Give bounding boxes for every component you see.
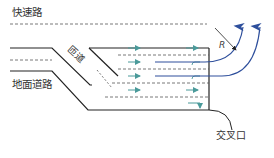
ground-road-label: 地面道路: [12, 79, 52, 90]
intersection-label: 交叉口: [216, 131, 246, 141]
intersection-curve: [209, 110, 232, 130]
lower-edge: [10, 71, 209, 110]
left-turn-arrow-1: [155, 27, 243, 62]
radius-label: R: [219, 41, 225, 50]
ramp-intersection-diagram: 快速路 地面道路 匝道 R 交叉口: [0, 0, 274, 158]
expressway-label: 快速路: [12, 7, 42, 18]
